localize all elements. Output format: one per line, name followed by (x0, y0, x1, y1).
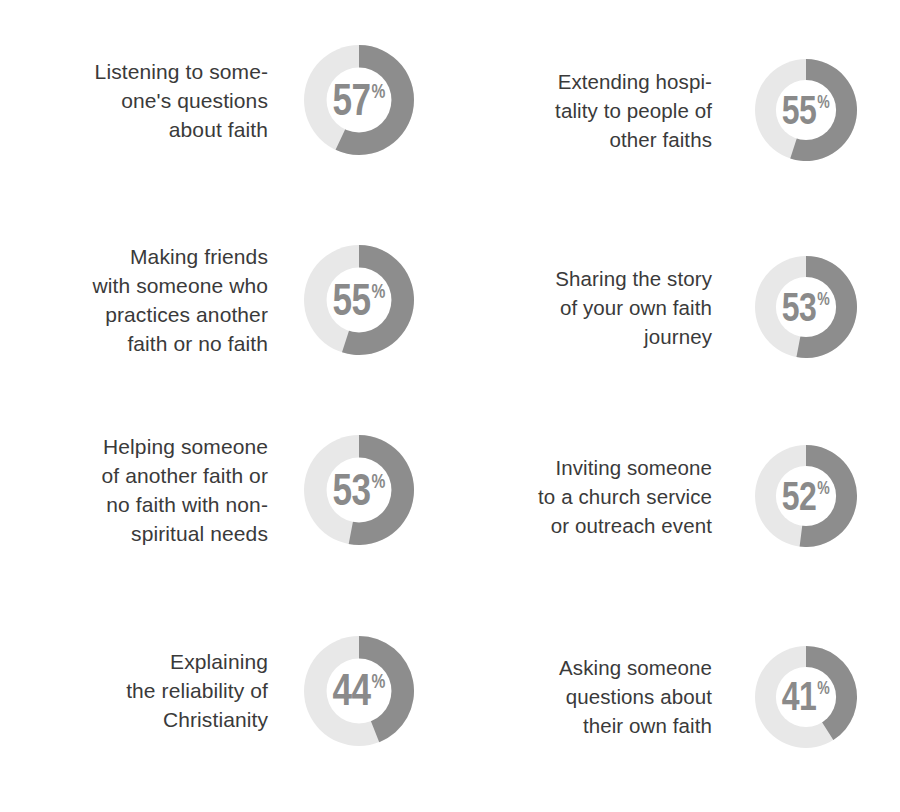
donut-wrapper: 44% (268, 636, 450, 746)
stat-label: Making friends with someone who practice… (0, 242, 268, 358)
stat-label: Listening to some- one's questions about… (0, 57, 268, 144)
donut-wrapper: 55% (268, 245, 450, 355)
donut-chart: 52% (755, 445, 857, 547)
stat-label-block: Helping someone of another faith or no f… (0, 432, 268, 548)
stat-label: Sharing the story of your own faith jour… (450, 264, 712, 351)
stat-label: Extending hospi- tality to people of oth… (450, 67, 712, 154)
stat-label-block: Asking someone questions about their own… (450, 653, 712, 740)
stat-item: Explaining the reliability of Christiani… (0, 588, 450, 793)
stat-item: Inviting someone to a church service or … (450, 396, 900, 596)
donut-chart: 55% (755, 59, 857, 161)
donut-chart: 53% (755, 256, 857, 358)
stat-label-block: Listening to some- one's questions about… (0, 57, 268, 144)
stat-label: Asking someone questions about their own… (450, 653, 712, 740)
stat-label-block: Extending hospi- tality to people of oth… (450, 67, 712, 154)
stat-item: Sharing the story of your own faith jour… (450, 207, 900, 407)
donut-chart: 41% (755, 646, 857, 748)
stat-label-block: Inviting someone to a church service or … (450, 453, 712, 540)
stat-label-block: Sharing the story of your own faith jour… (450, 264, 712, 351)
donut-wrapper: 53% (712, 256, 900, 358)
donut-wrapper: 53% (268, 435, 450, 545)
stat-label-block: Making friends with someone who practice… (0, 242, 268, 358)
stat-item: Helping someone of another faith or no f… (0, 390, 450, 590)
stat-label: Helping someone of another faith or no f… (0, 432, 268, 548)
stat-label: Inviting someone to a church service or … (450, 453, 712, 540)
donut-wrapper: 57% (268, 45, 450, 155)
stat-item: Extending hospi- tality to people of oth… (450, 10, 900, 210)
donut-chart-grid: Listening to some- one's questions about… (0, 0, 900, 812)
stat-label-block: Explaining the reliability of Christiani… (0, 647, 268, 734)
stat-label: Explaining the reliability of Christiani… (0, 647, 268, 734)
donut-chart: 53% (304, 435, 414, 545)
donut-chart: 57% (304, 45, 414, 155)
stat-item: Listening to some- one's questions about… (0, 0, 450, 200)
donut-wrapper: 41% (712, 646, 900, 748)
donut-wrapper: 55% (712, 59, 900, 161)
stat-item: Making friends with someone who practice… (0, 200, 450, 400)
stat-item: Asking someone questions about their own… (450, 594, 900, 799)
donut-chart: 44% (304, 636, 414, 746)
donut-wrapper: 52% (712, 445, 900, 547)
donut-chart: 55% (304, 245, 414, 355)
